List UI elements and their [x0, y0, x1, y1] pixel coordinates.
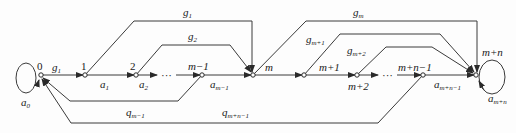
- node-2: [134, 73, 138, 77]
- signal-flow-diagram: ··· ··· 0 1 2 m−1 m m+1 m+2 m+n−1 m+n g1…: [0, 0, 516, 133]
- node-0: [39, 73, 43, 77]
- label-node-m-plus-2: m+2: [348, 80, 369, 92]
- label-node-m-plus-n: m+n: [482, 46, 503, 58]
- self-loop-amn: [479, 60, 505, 94]
- node-m-plus-n-minus-1: [421, 73, 425, 77]
- label-qmn1: qm+n−1: [222, 106, 249, 120]
- label-node-m-plus-1: m+1: [319, 61, 340, 73]
- node-m-minus-1: [200, 73, 204, 77]
- node-1: [83, 73, 87, 77]
- label-gm2: gm+2: [347, 44, 366, 58]
- label-amn1: am+n−1: [434, 78, 461, 92]
- label-gm1: gm+1: [306, 33, 325, 47]
- label-node-m-plus-n-minus-1: m+n−1: [398, 61, 432, 73]
- ellipsis-2: ···: [382, 69, 393, 81]
- diagram-svg: ··· ··· 0 1 2 m−1 m m+1 m+2 m+n−1 m+n g1…: [0, 0, 516, 133]
- label-amn: am+n: [488, 92, 507, 106]
- label-g1-main: g1: [52, 61, 61, 75]
- label-gm: gm: [353, 6, 364, 20]
- label-a2: a2: [139, 78, 149, 92]
- label-am1: am−1: [210, 78, 229, 92]
- label-qm1: qm−1: [126, 106, 145, 120]
- node-m-plus-1: [302, 73, 306, 77]
- ellipsis-1: ···: [161, 69, 172, 81]
- label-node-m: m: [265, 61, 273, 73]
- label-g2: g2: [188, 30, 198, 44]
- edge-g1-top: [85, 21, 252, 75]
- label-g1-top: g1: [183, 6, 192, 20]
- label-node-1: 1: [81, 60, 87, 72]
- self-loop-a0: [16, 63, 39, 93]
- label-node-2: 2: [130, 60, 136, 72]
- label-node-0: 0: [37, 60, 43, 72]
- node-m-plus-n: [474, 73, 478, 77]
- node-m-plus-2: [355, 73, 359, 77]
- label-node-m-minus-1: m−1: [188, 60, 209, 72]
- label-a0: a0: [21, 96, 31, 110]
- edge-qm1: [43, 75, 202, 101]
- node-m: [251, 73, 255, 77]
- label-a1: a1: [100, 78, 109, 92]
